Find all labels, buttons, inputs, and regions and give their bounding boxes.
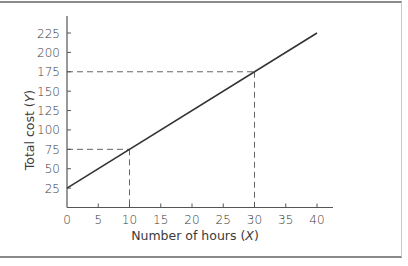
y-axis-ticks: 255075100125150175200225 xyxy=(37,27,71,196)
x-tick-label: 5 xyxy=(94,213,102,227)
y-tick-label: 200 xyxy=(37,46,60,60)
x-tick-label: 30 xyxy=(247,213,262,227)
reference-dashed-lines xyxy=(67,72,255,208)
x-tick-label: 40 xyxy=(309,213,324,227)
x-tick-label: 25 xyxy=(216,213,231,227)
total-cost-line xyxy=(67,33,317,188)
y-tick-label: 25 xyxy=(45,182,60,196)
y-tick-label: 75 xyxy=(45,143,60,157)
y-tick-label: 225 xyxy=(37,27,60,41)
data-series xyxy=(67,33,317,188)
axes xyxy=(67,16,333,208)
y-tick-label: 100 xyxy=(37,123,60,137)
x-tick-label: 35 xyxy=(278,213,293,227)
x-tick-label: 20 xyxy=(184,213,199,227)
y-tick-label: 125 xyxy=(37,104,60,118)
y-axis-title: Total cost (Y) xyxy=(22,90,37,171)
y-tick-label: 50 xyxy=(45,162,60,176)
x-tick-label: 0 xyxy=(63,213,71,227)
x-tick-label: 15 xyxy=(153,213,168,227)
x-tick-label: 10 xyxy=(122,213,137,227)
y-tick-label: 175 xyxy=(37,65,60,79)
cost-line-chart: 0510152025303540 25507510012515017520022… xyxy=(0,0,408,266)
y-tick-label: 150 xyxy=(37,85,60,99)
x-axis-title: Number of hours (X) xyxy=(131,228,259,243)
